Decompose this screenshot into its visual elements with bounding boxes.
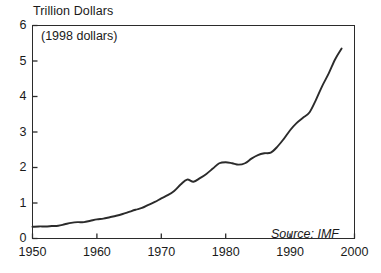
y-axis-tick-label: 2 bbox=[5, 161, 27, 174]
x-axis-tick-label: 1970 bbox=[139, 246, 183, 259]
chart-subtitle: (1998 dollars) bbox=[41, 29, 117, 43]
y-axis-tick-label: 3 bbox=[5, 126, 27, 139]
x-axis-tick-label: 1950 bbox=[11, 246, 55, 259]
page-title: Trillion Dollars bbox=[33, 4, 113, 18]
y-axis-tick-label: 5 bbox=[5, 55, 27, 68]
source-attribution: Source: IMF bbox=[271, 227, 339, 241]
y-axis-tick-label: 1 bbox=[5, 197, 27, 210]
x-axis-tick-label: 1980 bbox=[204, 246, 248, 259]
y-axis-tick-label: 0 bbox=[5, 232, 27, 245]
y-axis-tick-label: 6 bbox=[5, 19, 27, 32]
plot-area bbox=[32, 25, 355, 239]
x-axis-tick-label: 1990 bbox=[268, 246, 312, 259]
y-axis-tick-label: 4 bbox=[5, 90, 27, 103]
x-axis-tick-label: 1960 bbox=[75, 246, 119, 259]
chart-figure: Trillion Dollars (1998 dollars) Source: … bbox=[0, 0, 381, 273]
x-axis-tick-label: 2000 bbox=[333, 246, 377, 259]
